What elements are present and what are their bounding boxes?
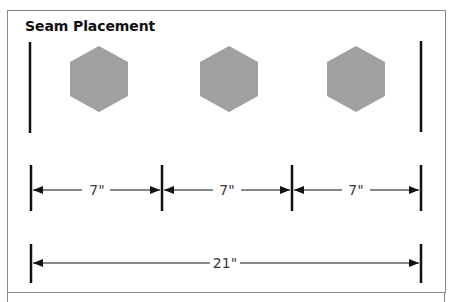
hexagon-3 [327, 46, 385, 112]
segment-label: 7" [89, 182, 104, 198]
seam-placement-diagram: 7" 7" 7" 21" [0, 0, 452, 302]
hexagon-group [70, 46, 385, 112]
segment-measurement-row: 7" 7" 7" [31, 165, 421, 211]
total-label: 21" [213, 255, 237, 271]
hexagon-1 [70, 46, 128, 112]
segment-label: 7" [348, 182, 363, 198]
total-measurement-row: 21" [31, 244, 421, 283]
segment-label: 7" [219, 182, 234, 198]
hexagon-2 [200, 46, 258, 112]
